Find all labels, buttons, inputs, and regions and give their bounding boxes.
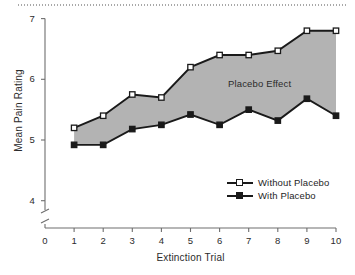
x-tick-label: 5: [181, 235, 201, 246]
x-tick-label: 2: [93, 235, 113, 246]
chart-legend: Without Placebo With Placebo: [227, 176, 329, 202]
x-tick-label: 9: [297, 235, 317, 246]
filled-square-marker-icon: [227, 190, 253, 202]
legend-label: Without Placebo: [258, 177, 329, 188]
open-square-marker-icon: [227, 177, 253, 189]
legend-item-without-placebo[interactable]: Without Placebo: [227, 176, 329, 189]
x-tick-label: 8: [268, 235, 288, 246]
x-tick-label: 1: [64, 235, 84, 246]
x-tick-label: 3: [122, 235, 142, 246]
legend-label: With Placebo: [258, 190, 316, 201]
x-tick-label: 7: [239, 235, 259, 246]
y-tick-label: 7: [11, 13, 35, 24]
x-tick-label: 4: [151, 235, 171, 246]
chart-figure: 4567 012345678910 Mean Pain Rating Extin…: [0, 0, 355, 275]
x-axis-title: Extinction Trial: [45, 252, 336, 263]
y-tick-label: 4: [11, 195, 35, 206]
y-axis-title: Mean Pain Rating: [13, 51, 24, 171]
x-tick-label: 10: [326, 235, 346, 246]
x-tick-label: 0: [35, 235, 55, 246]
placebo-effect-annotation: Placebo Effect: [228, 78, 291, 89]
plot-canvas: [0, 0, 355, 275]
legend-item-with-placebo[interactable]: With Placebo: [227, 189, 329, 202]
placebo-effect-shaded-band: [74, 31, 336, 145]
x-tick-label: 6: [210, 235, 230, 246]
